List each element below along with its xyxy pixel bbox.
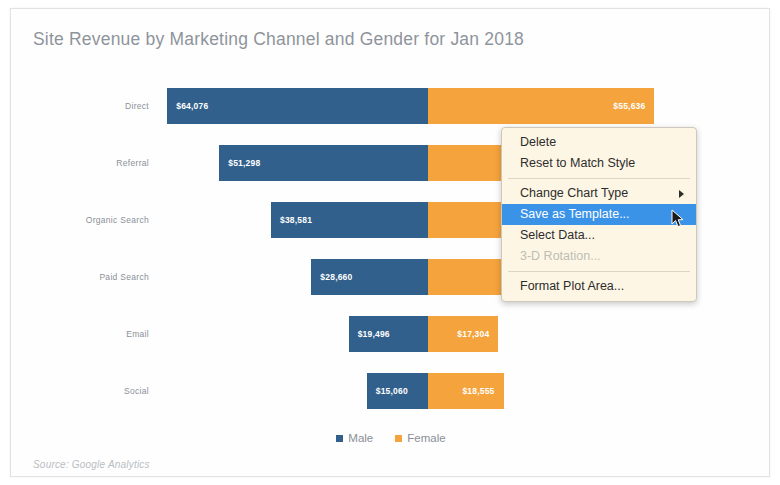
menu-item-label: Format Plot Area... — [520, 279, 624, 293]
chart-bar-row: Social$15,060$18,555 — [11, 373, 770, 409]
category-label: Direct — [125, 101, 149, 111]
bar-segment-male[interactable]: $19,496 — [349, 316, 428, 352]
bar-value-label: $51,298 — [219, 158, 269, 168]
chart-legend: MaleFemale — [11, 432, 770, 444]
slide-canvas: Site Revenue by Marketing Channel and Ge… — [10, 8, 770, 477]
bar-segment-female[interactable]: $55,636 — [428, 88, 654, 124]
legend-item[interactable]: Female — [395, 432, 445, 444]
bar-value-label: $38,581 — [271, 215, 321, 225]
bar-segment-male[interactable]: $64,076 — [167, 88, 428, 124]
menu-item[interactable]: Select Data... — [502, 225, 696, 246]
menu-item[interactable]: Format Plot Area... — [502, 276, 696, 297]
source-note: Source: Google Analytics — [33, 459, 150, 470]
legend-item[interactable]: Male — [336, 432, 373, 444]
legend-swatch-icon — [395, 435, 402, 442]
chart-bar-row: Direct$64,076$55,636 — [11, 88, 770, 124]
menu-item[interactable]: Delete — [502, 132, 696, 153]
menu-item: 3-D Rotation... — [502, 246, 696, 267]
bar-segment-female[interactable]: $17,304 — [428, 316, 498, 352]
context-menu[interactable]: DeleteReset to Match StyleChange Chart T… — [501, 127, 697, 302]
menu-separator — [508, 178, 690, 179]
bar-segment-male[interactable]: $15,060 — [367, 373, 428, 409]
legend-swatch-icon — [336, 435, 343, 442]
menu-item-label: 3-D Rotation... — [520, 249, 601, 263]
bar-value-label: $64,076 — [167, 101, 217, 111]
bar-segment-male[interactable]: $38,581 — [271, 202, 428, 238]
category-label: Paid Search — [99, 272, 149, 282]
bar-value-label: $18,555 — [453, 386, 503, 396]
bar-segment-male[interactable]: $51,298 — [219, 145, 428, 181]
bar-value-label: $19,496 — [349, 329, 399, 339]
menu-item-label: Save as Template... — [520, 207, 630, 221]
bar-value-label: $17,304 — [448, 329, 498, 339]
bar-value-label: $55,636 — [604, 101, 654, 111]
menu-item-label: Reset to Match Style — [520, 156, 635, 170]
page-title: Site Revenue by Marketing Channel and Ge… — [33, 29, 524, 50]
legend-label: Female — [407, 432, 445, 444]
bar-value-label: $28,660 — [311, 272, 361, 282]
category-label: Referral — [116, 158, 149, 168]
menu-item[interactable]: Change Chart Type — [502, 183, 696, 204]
bar-value-label: $15,060 — [367, 386, 417, 396]
menu-item-label: Select Data... — [520, 228, 595, 242]
menu-item-label: Delete — [520, 135, 556, 149]
legend-label: Male — [348, 432, 373, 444]
menu-item-label: Change Chart Type — [520, 186, 628, 200]
bar-segment-female[interactable]: $18,555 — [428, 373, 504, 409]
category-label: Social — [124, 386, 149, 396]
submenu-arrow-icon — [679, 190, 684, 198]
menu-item[interactable]: Save as Template... — [502, 204, 696, 225]
menu-separator — [508, 271, 690, 272]
menu-item[interactable]: Reset to Match Style — [502, 153, 696, 174]
category-label: Organic Search — [86, 215, 149, 225]
chart-bar-row: Email$19,496$17,304 — [11, 316, 770, 352]
category-label: Email — [126, 329, 149, 339]
bar-segment-male[interactable]: $28,660 — [311, 259, 428, 295]
